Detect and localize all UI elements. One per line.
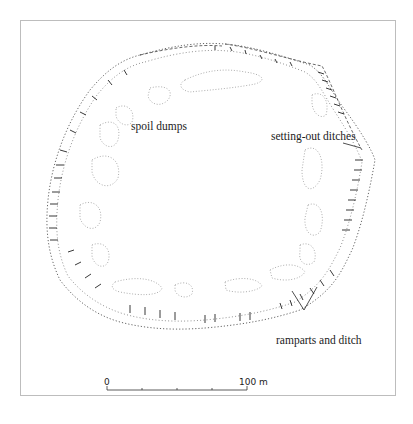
label-spoil-dumps: spoil dumps (131, 121, 187, 133)
scale-bar (107, 386, 247, 390)
outer-rampart-outline (47, 43, 375, 329)
label-setting-out-ditches: setting-out ditches (271, 131, 356, 143)
label-ramparts-and-ditch: ramparts and ditch (276, 335, 362, 347)
scale-end-label: 100 m (239, 378, 268, 387)
site-plan (0, 0, 413, 424)
setting-out-ditch-2 (140, 45, 222, 55)
scale-start-label: 0 (104, 378, 110, 387)
spoil-dumps (80, 70, 327, 297)
ramparts-leader (292, 287, 317, 310)
rampart-hachures (49, 46, 363, 323)
